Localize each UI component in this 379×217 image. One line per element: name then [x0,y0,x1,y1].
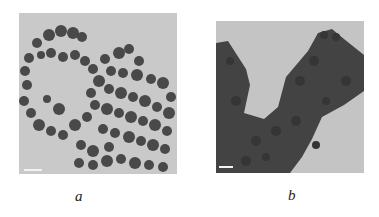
caption-b: b [288,187,296,204]
micrograph-a [19,13,177,174]
particles-a-graphic [19,13,177,174]
scale-bar-b [219,166,233,168]
scale-bar-a [24,169,42,171]
micrograph-b [216,21,364,173]
particles-b-graphic [216,21,364,173]
caption-a: a [75,188,83,205]
